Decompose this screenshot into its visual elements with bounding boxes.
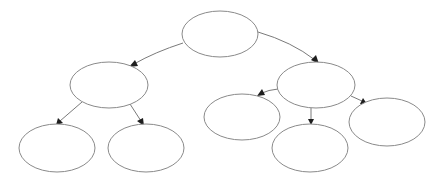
- edge-right-mid-to-right-right: [351, 96, 362, 101]
- node-left-right[interactable]: [108, 124, 184, 172]
- edge-root-to-left-mid: [134, 43, 183, 64]
- node-left-mid[interactable]: [70, 62, 148, 108]
- edge-left-mid-to-left-right: [130, 104, 141, 121]
- edge-left-mid-to-left-left: [60, 102, 82, 121]
- node-right-left[interactable]: [204, 94, 280, 140]
- edge-root-to-right-mid: [258, 32, 315, 60]
- node-right-right[interactable]: [349, 98, 425, 146]
- node-root[interactable]: [182, 11, 258, 57]
- node-right-center[interactable]: [272, 124, 348, 172]
- nodes: [19, 11, 425, 172]
- tree-diagram: [0, 0, 448, 185]
- node-left-left[interactable]: [19, 124, 95, 172]
- edge-right-mid-to-right-left: [262, 89, 278, 93]
- node-right-mid[interactable]: [277, 62, 355, 108]
